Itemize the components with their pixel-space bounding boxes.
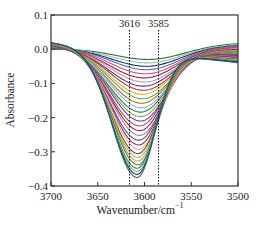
y-tick-label: −0.1 — [28, 77, 48, 89]
x-axis-title-text: Wavenumber/cm — [97, 204, 175, 216]
x-axis-title: Wavenumber/cm−1 — [97, 201, 184, 216]
x-tick-label: 3650 — [87, 190, 110, 202]
annotation-label: 3616 — [119, 18, 140, 29]
y-tick-label: 0.0 — [34, 43, 48, 55]
annotation-label: 3585 — [148, 18, 169, 29]
x-axis: 37003650360035503500 — [40, 182, 250, 202]
x-tick-label: 3500 — [227, 190, 250, 202]
spectra-curves — [49, 43, 240, 178]
x-tick-label: 3550 — [180, 190, 203, 202]
y-tick-label: −0.4 — [28, 180, 48, 192]
spectrum-curve — [49, 44, 240, 157]
y-tick-label: 0.1 — [34, 9, 48, 21]
y-axis-title: Absorbance — [4, 73, 16, 128]
x-tick-label: 3600 — [134, 190, 157, 202]
absorbance-chart: 36163585 37003650360035503500 0.10.0−0.1… — [0, 0, 260, 231]
x-axis-title-superscript: −1 — [175, 201, 184, 210]
spectrum-curve — [49, 43, 240, 161]
y-tick-label: −0.2 — [28, 112, 48, 124]
y-tick-label: −0.3 — [28, 146, 48, 158]
